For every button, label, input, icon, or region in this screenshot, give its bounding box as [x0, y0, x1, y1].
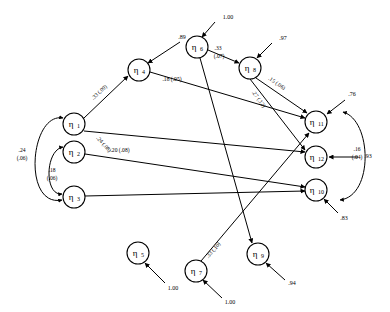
disturbance-arrow — [148, 42, 180, 63]
node-eta10[interactable]: η 10 — [305, 179, 327, 201]
node-eta4[interactable]: η 4 — [128, 59, 150, 81]
path-eta6-to-eta8 — [208, 50, 239, 63]
disturbance-arrow — [327, 100, 345, 114]
disturbance-eta4: .89 — [148, 34, 186, 63]
path-arrow — [201, 133, 309, 261]
node-eta3[interactable]: η 3 — [63, 186, 85, 208]
correlation-label-value: .16 — [354, 146, 361, 152]
correlation-eta1-eta3: .24 (.06) — [17, 118, 63, 201]
node-circle[interactable] — [305, 111, 327, 133]
path-eta2-to-eta10: .20 (.08) — [85, 147, 305, 187]
path-eta8-to-eta11: .15 (.06) — [256, 75, 307, 113]
disturbance-arrow — [145, 263, 165, 283]
path-eta7-to-eta11: .33 (.10) — [201, 133, 309, 261]
disturbance-arrow — [266, 263, 285, 280]
path-label: .15 (.06) — [267, 75, 287, 92]
disturbance-eta8: .97 — [257, 35, 287, 58]
path-arrow — [256, 78, 307, 113]
correlation-label-value: .24 — [19, 147, 26, 153]
node-circle[interactable] — [305, 179, 327, 201]
disturbance-label: .76 — [348, 91, 356, 97]
disturbance-label: 1.00 — [168, 285, 179, 291]
disturbance-label: .89 — [178, 34, 186, 40]
disturbance-eta7: 1.00 — [203, 280, 235, 305]
disturbance-arrow — [202, 22, 215, 37]
correlation-arc — [340, 112, 365, 200]
path-arrow — [250, 79, 305, 150]
disturbance-label: .94 — [288, 280, 296, 286]
correlation-eta2-eta3: .18 (.06) — [47, 147, 63, 194]
node-circle[interactable] — [247, 243, 269, 265]
disturbance-eta10: .83 — [324, 199, 348, 221]
node-eta11[interactable]: η 11 — [305, 111, 327, 133]
disturbance-arrow — [257, 43, 272, 58]
node-eta12[interactable]: η 12 — [305, 146, 327, 168]
node-eta5[interactable]: η 5 — [127, 242, 149, 264]
disturbance-eta6: 1.00 — [202, 14, 233, 37]
path-arrow — [85, 154, 305, 187]
path-label: .20 (.08) — [110, 147, 129, 154]
node-circle[interactable] — [63, 141, 85, 163]
disturbance-arrow — [203, 280, 222, 298]
disturbance-eta9: .94 — [266, 263, 296, 286]
disturbance-label: 1.00 — [223, 14, 234, 20]
path-eta4-to-eta11: .18 (.05) — [150, 72, 305, 118]
path-label: .24 (.08) — [95, 135, 113, 154]
node-circle[interactable] — [186, 36, 208, 58]
node-eta8[interactable]: η 8 — [239, 57, 261, 79]
node-eta1[interactable]: η 1 — [63, 113, 85, 135]
node-eta7[interactable]: η 7 — [185, 260, 207, 282]
disturbance-arrow — [324, 199, 338, 213]
path-eta1-to-eta4: .33 (.09) — [84, 76, 128, 118]
node-circle[interactable] — [127, 242, 149, 264]
path-eta3-to-eta10 — [85, 191, 305, 196]
node-eta6[interactable]: η 6 — [186, 36, 208, 58]
node-circle[interactable] — [63, 113, 85, 135]
node-circle[interactable] — [239, 57, 261, 79]
node-circle[interactable] — [128, 59, 150, 81]
path-arrow — [150, 72, 305, 118]
disturbance-eta5: 1.00 — [145, 263, 178, 291]
node-circle[interactable] — [63, 186, 85, 208]
correlation-label-se: (.06) — [47, 175, 58, 182]
path-diagram-svg: .24 (.06) .18 (.06) .16 (.04) .33 (.09) … — [0, 0, 390, 312]
disturbance-label: .97 — [279, 35, 287, 41]
path-label-value: .33 — [215, 45, 222, 51]
node-circle[interactable] — [305, 146, 327, 168]
disturbance-eta11: .76 — [327, 91, 356, 114]
path-label: .33 (.09) — [90, 83, 109, 101]
path-label: .33 (.10) — [204, 241, 222, 260]
correlation-arc — [49, 147, 63, 194]
correlation-label-se: (.06) — [17, 155, 28, 162]
path-arrow — [84, 131, 305, 152]
path-arrow — [84, 76, 128, 118]
path-diagram-canvas: .24 (.06) .18 (.06) .16 (.04) .33 (.09) … — [0, 0, 390, 312]
node-eta9[interactable]: η 9 — [247, 243, 269, 265]
path-arrow — [208, 50, 239, 63]
node-circle[interactable] — [185, 260, 207, 282]
node-eta2[interactable]: η 2 — [63, 141, 85, 163]
disturbance-label: 1.00 — [225, 299, 236, 305]
path-eta1-to-eta12: .24 (.08) — [84, 131, 305, 154]
disturbance-label: .83 — [340, 215, 348, 221]
path-eta8-to-eta12: .27 (.12) — [250, 79, 305, 150]
correlation-eta11-eta10: .16 (.04) — [340, 112, 365, 200]
path-arrow — [200, 58, 252, 243]
correlation-arc — [35, 118, 63, 201]
path-arrow — [85, 191, 305, 196]
